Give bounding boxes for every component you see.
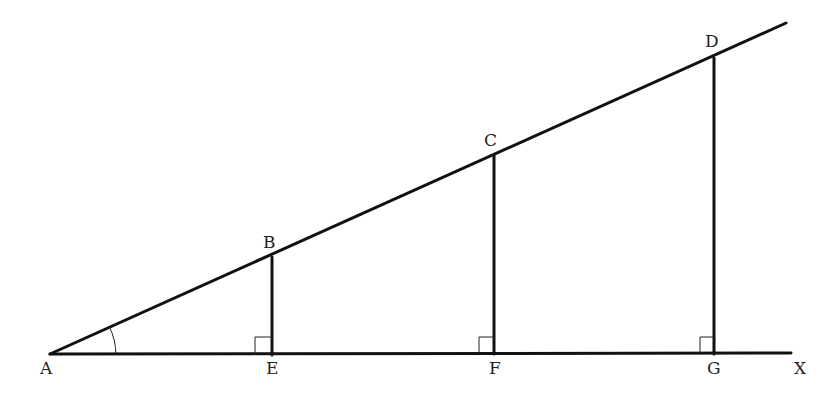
label-x: X xyxy=(794,358,807,378)
label-e: E xyxy=(266,358,278,378)
label-g: G xyxy=(707,358,721,378)
label-d: D xyxy=(705,31,719,51)
label-b: B xyxy=(263,232,276,252)
right-angle-marker-f xyxy=(479,337,494,354)
angle-arc-a xyxy=(109,326,116,355)
label-c: C xyxy=(484,130,497,150)
similar-triangles-diagram: A B C D E F G X xyxy=(0,0,834,405)
base-line-ax xyxy=(50,353,791,354)
right-angle-marker-g xyxy=(700,337,714,354)
label-a: A xyxy=(39,358,53,378)
hypotenuse-line-ad xyxy=(50,23,786,354)
label-f: F xyxy=(489,358,501,378)
